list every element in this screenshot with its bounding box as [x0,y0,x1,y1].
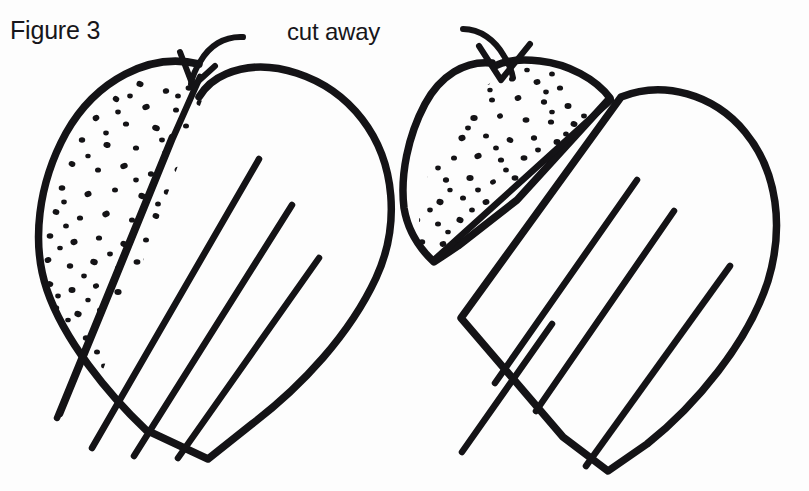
pleat-line-right-3 [536,211,674,411]
pleat-line-left-1 [57,137,172,418]
cut-away-annotation: cut away [287,20,380,44]
figure-caption: Figure 3 [10,18,100,43]
pleat-line-right-2 [495,180,637,383]
pleat-line-left-2 [92,159,259,448]
heart-left-intact [39,37,392,459]
pleat-line-right-1 [462,324,552,452]
stipple-texture-right [414,66,587,257]
heart-right-separated [403,29,777,471]
figure-3-illustration [0,0,809,491]
figure-page: Figure 3 cut away [0,0,809,491]
heart-right-body-outline [461,90,777,471]
